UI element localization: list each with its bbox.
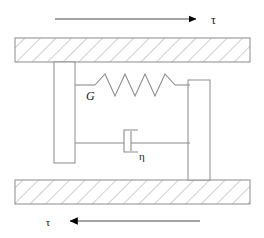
bottom-fixed-plate	[15, 180, 250, 204]
spring-modulus-label: G	[86, 89, 95, 103]
dashpot-viscosity-label: η	[139, 150, 145, 162]
right-vertical-block	[188, 80, 210, 180]
kelvin-voigt-diagram: τ τ G η	[0, 0, 264, 238]
top-plate-body	[15, 38, 250, 62]
bottom-shear-stress-label: τ	[46, 216, 51, 228]
top-fixed-plate	[15, 38, 250, 62]
left-vertical-block	[54, 62, 75, 163]
top-shear-stress-label: τ	[211, 13, 216, 27]
diagram-canvas: τ τ G η	[0, 0, 264, 238]
spring-coil	[95, 74, 175, 96]
bottom-plate-body	[15, 180, 250, 204]
dashpot-element	[75, 130, 190, 152]
